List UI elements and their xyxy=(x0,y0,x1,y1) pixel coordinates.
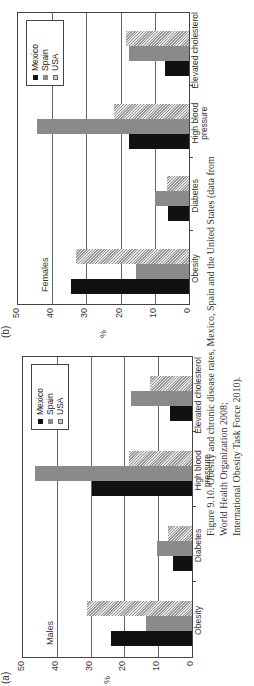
bar-usa xyxy=(87,601,192,616)
x-category-label: Obesity xyxy=(194,579,203,662)
bar-spain xyxy=(157,541,192,556)
plot-area-males: MalesMexicoSpainUSA xyxy=(22,356,193,658)
y-tick-label: 30 xyxy=(84,661,94,679)
y-axis-label: % xyxy=(98,330,108,338)
y-tick-label: 50 xyxy=(11,308,21,326)
legend-swatch-usa xyxy=(58,419,63,424)
y-tick-label: 30 xyxy=(79,308,89,326)
y-tick-label: 0 xyxy=(182,308,192,326)
bar-spain xyxy=(35,466,192,481)
plot-area-females: FemalesMexicoSpainUSA xyxy=(17,12,190,305)
panel-label-b: (b) xyxy=(0,326,11,338)
y-tick-label: 20 xyxy=(117,661,127,679)
bar-mexico xyxy=(111,631,192,646)
bar-spain xyxy=(131,391,192,406)
legend-label: USA xyxy=(55,398,65,415)
sex-label: Males xyxy=(45,621,55,645)
y-tick-label: 10 xyxy=(148,308,158,326)
y-tick-label: 40 xyxy=(45,308,55,326)
bar-usa xyxy=(114,104,189,119)
legend-label: USA xyxy=(50,54,60,71)
legend-swatch-usa xyxy=(53,75,58,80)
bar-usa xyxy=(168,526,192,541)
caption-line-2: International Obesity Task Force 2010). xyxy=(230,136,243,536)
bar-usa xyxy=(167,176,189,191)
x-category-label: Obesity xyxy=(191,228,200,309)
legend-swatch-mexico xyxy=(33,75,38,80)
y-axis-label: % xyxy=(102,676,112,684)
legend-label: Mexico xyxy=(30,44,40,71)
panel-males: (a) % MalesMexicoSpainUSA 01020304050Obe… xyxy=(0,346,205,686)
legend-item-mexico: Mexico xyxy=(35,370,45,424)
panel-label-a: (a) xyxy=(0,672,11,684)
bar-mexico xyxy=(92,481,192,496)
y-tick-label: 20 xyxy=(114,308,124,326)
legend-item-usa: USA xyxy=(50,26,60,80)
legend-swatch-mexico xyxy=(38,419,43,424)
bar-usa xyxy=(129,451,192,466)
bar-usa xyxy=(126,31,189,46)
bar-spain xyxy=(146,616,192,631)
bar-spain xyxy=(129,46,189,61)
x-category-label: Elevated cholesterol xyxy=(194,354,203,437)
sex-label: Females xyxy=(40,257,50,292)
x-category-label: Diabetes xyxy=(194,504,203,587)
legend-item-usa: USA xyxy=(55,370,65,424)
x-category-label: Diabetes xyxy=(191,156,200,237)
legend-swatch-spain xyxy=(48,419,53,424)
figure-page: (a) % MalesMexicoSpainUSA 01020304050Obe… xyxy=(0,0,254,686)
legend: MexicoSpainUSA xyxy=(26,20,64,86)
legend: MexicoSpainUSA xyxy=(31,364,69,430)
bar-mexico xyxy=(170,406,192,421)
legend-item-mexico: Mexico xyxy=(30,26,40,80)
bar-mexico xyxy=(173,556,192,571)
bar-spain xyxy=(155,191,189,206)
legend-label: Spain xyxy=(45,393,55,415)
bar-mexico xyxy=(168,206,189,221)
y-tick-label: 0 xyxy=(185,661,195,679)
bar-usa xyxy=(150,376,192,391)
bar-mexico xyxy=(165,61,189,76)
caption-line-1: Figure 9.10. Obesity and chronic disease… xyxy=(204,136,230,536)
bar-spain xyxy=(37,119,189,134)
legend-item-spain: Spain xyxy=(45,370,55,424)
bar-mexico xyxy=(71,279,189,294)
bar-usa xyxy=(76,249,189,264)
y-tick-label: 10 xyxy=(151,661,161,679)
figure-caption: Figure 9.10. Obesity and chronic disease… xyxy=(204,136,243,536)
legend-label: Mexico xyxy=(35,388,45,415)
y-tick-label: 40 xyxy=(50,661,60,679)
legend-label: Spain xyxy=(40,49,50,71)
bar-mexico xyxy=(129,134,189,149)
y-tick-label: 50 xyxy=(16,661,26,679)
legend-swatch-spain xyxy=(43,75,48,80)
x-category-label: Elevated cholesterol xyxy=(191,10,200,91)
panel-females: (b) % FemalesMexicoSpainUSA 01020304050O… xyxy=(0,0,205,340)
legend-item-spain: Spain xyxy=(40,26,50,80)
bar-spain xyxy=(136,264,189,279)
